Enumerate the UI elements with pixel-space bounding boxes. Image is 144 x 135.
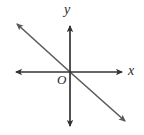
diagonal-line-upper-left-ray — [17, 24, 70, 72]
coordinate-plane-svg — [0, 0, 144, 135]
origin-label: O — [57, 73, 66, 86]
y-axis-label: y — [64, 3, 70, 17]
coordinate-plane-figure: y x O — [0, 0, 144, 135]
diagonal-line-lower-right-ray — [70, 72, 125, 121]
x-axis-label: x — [128, 64, 134, 78]
